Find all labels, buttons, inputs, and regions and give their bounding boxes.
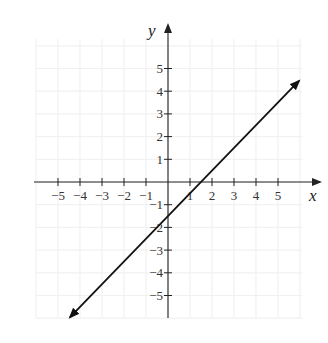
x-axis-label: x (308, 186, 317, 205)
y-tick-label: 1 (157, 152, 164, 167)
y-tick-label: −3 (149, 243, 163, 258)
x-tick-label: 2 (209, 188, 216, 203)
y-tick-label: −1 (149, 197, 163, 212)
x-tick-label: 5 (275, 188, 282, 203)
coordinate-plane: −5−4−3−2−11234554321−1−2−3−4−5 x y (0, 0, 328, 343)
y-tick-label: −5 (149, 288, 163, 303)
x-tick-label: −3 (95, 188, 109, 203)
x-tick-label: −5 (51, 188, 65, 203)
y-tick-label: −4 (149, 265, 163, 280)
y-tick-label: 3 (157, 106, 164, 121)
x-tick-label: 3 (231, 188, 238, 203)
y-tick-label: 5 (157, 61, 164, 76)
x-tick-label: 4 (253, 188, 260, 203)
y-axis-label: y (146, 21, 156, 40)
x-tick-label: −4 (73, 188, 87, 203)
x-tick-label: −2 (117, 188, 131, 203)
y-tick-label: 2 (157, 129, 164, 144)
y-tick-label: 4 (157, 84, 164, 99)
background-grid (36, 39, 302, 318)
